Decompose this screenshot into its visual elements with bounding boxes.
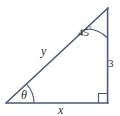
degree-symbol-icon: ° xyxy=(89,25,92,33)
hypotenuse-label: y xyxy=(41,45,46,57)
geometry-figure: 45° 3 y x θ xyxy=(0,0,120,116)
apex-angle-value: 45 xyxy=(78,26,89,38)
horizontal-side-label: x xyxy=(58,104,63,116)
base-angle-label: θ xyxy=(21,89,27,101)
right-triangle-drawing xyxy=(0,0,120,116)
right-angle-marker-icon xyxy=(99,94,108,104)
apex-angle-label: 45° xyxy=(78,26,92,38)
vertical-side-label: 3 xyxy=(108,58,114,69)
theta-angle-arc-icon xyxy=(27,84,34,103)
